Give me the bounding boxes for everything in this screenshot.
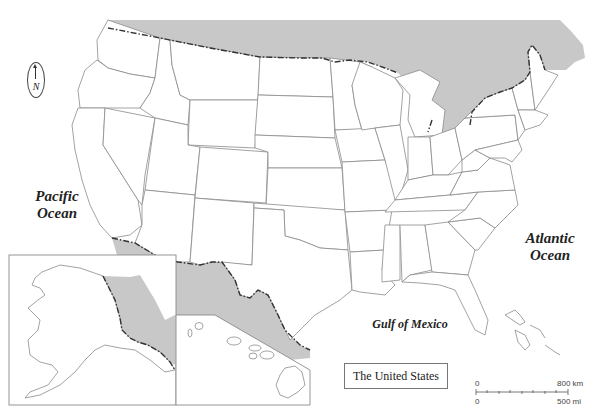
pacific-line2: Ocean: [22, 205, 92, 222]
state-south-dakota: [255, 95, 335, 138]
state-mississippi: [382, 225, 400, 282]
us-outline-map: N Pacific Ocean Atlantic Ocean Gulf of M…: [0, 0, 597, 419]
caribbean-islands: [505, 310, 560, 355]
scale-mi-end: 500 mi: [557, 397, 581, 406]
map-title: The United States: [353, 369, 439, 384]
state-north-dakota: [258, 57, 333, 97]
north-arrow-icon: [35, 67, 36, 79]
scale-bar: 0 800 km 0 500 mi: [473, 379, 593, 407]
state-indiana: [408, 137, 433, 180]
state-wyoming: [188, 100, 258, 148]
atlantic-ocean-label: Atlantic Ocean: [515, 230, 585, 263]
compass-rose: N: [27, 62, 45, 98]
scale-mi-start: 0: [475, 397, 479, 406]
scale-km-start: 0: [475, 379, 479, 388]
map-title-box: The United States: [344, 363, 448, 389]
pacific-line1: Pacific: [22, 188, 92, 205]
atlantic-line2: Ocean: [515, 247, 585, 264]
pacific-ocean-label: Pacific Ocean: [22, 188, 92, 221]
compass-letter: N: [28, 81, 44, 92]
scale-ruler: [473, 388, 593, 396]
scale-km-end: 800 km: [557, 379, 583, 388]
state-kansas: [266, 168, 345, 210]
alaska-inset: [9, 255, 176, 405]
state-new-mexico: [190, 198, 254, 265]
gulf-of-mexico-label: Gulf of Mexico: [355, 318, 465, 331]
state-colorado: [195, 147, 268, 203]
atlantic-line1: Atlantic: [515, 230, 585, 247]
state-nebraska: [255, 135, 342, 168]
